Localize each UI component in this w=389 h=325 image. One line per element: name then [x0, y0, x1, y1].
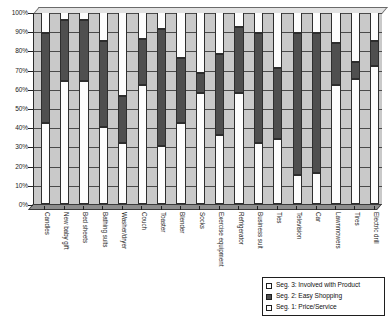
x-axis-tick-mark	[141, 206, 142, 210]
y-axis-tick-mark	[28, 147, 33, 148]
bar-group	[196, 13, 205, 204]
x-axis-tick-label: Television	[296, 212, 302, 239]
bar-segment-seg1	[370, 66, 379, 204]
bar-segment-seg1	[331, 85, 340, 204]
bar-segment-seg1	[118, 143, 127, 204]
bar-segment-seg1	[293, 175, 302, 204]
bar-segment-seg1	[60, 81, 69, 204]
bar-group	[234, 13, 243, 204]
bar-segment-seg2	[254, 33, 263, 142]
stacked-bar[interactable]	[293, 13, 302, 204]
bar-group	[293, 13, 302, 204]
bar-segment-seg3	[41, 13, 50, 33]
y-axis-tick-label: 60%	[15, 87, 28, 94]
legend-swatch-seg3	[266, 283, 272, 289]
bar-segment-seg2	[41, 33, 50, 123]
bar-segment-seg2	[234, 27, 243, 92]
y-axis-tick-label: 20%	[15, 164, 28, 171]
y-axis-tick-mark	[28, 13, 33, 14]
y-axis-tick-mark	[28, 109, 33, 110]
plot-inner	[34, 13, 382, 204]
bar-group	[79, 13, 88, 204]
x-axis-label-slot: Blender	[169, 210, 188, 302]
stacked-bar[interactable]	[60, 13, 69, 204]
x-axis-tick-mark	[316, 206, 317, 210]
x-axis-tick-label: Socks	[199, 212, 205, 229]
bar-segment-seg3	[60, 13, 69, 20]
bar-segment-seg2	[138, 39, 147, 85]
y-axis-tick-label: 70%	[15, 68, 28, 75]
x-axis-label-slot: Toaster	[149, 210, 168, 302]
stacked-bar[interactable]	[138, 13, 147, 204]
y-axis-labels: 100%90%80%70%60%50%40%30%20%10%0%	[2, 0, 28, 325]
bar-segment-seg2	[273, 68, 282, 139]
stacked-bar[interactable]	[118, 13, 127, 204]
bar-segment-seg1	[176, 123, 185, 204]
bar-segment-seg2	[370, 41, 379, 66]
bar-group	[312, 13, 321, 204]
x-axis-label-slot: Bathing suits	[91, 210, 110, 302]
x-axis-label-slot: Couch	[130, 210, 149, 302]
bar-group	[118, 13, 127, 204]
x-axis-tick-mark	[180, 206, 181, 210]
x-axis-tick-mark	[354, 206, 355, 210]
stacked-bar[interactable]	[157, 13, 166, 204]
bar-segment-seg1	[79, 81, 88, 204]
bar-segment-seg1	[254, 143, 263, 204]
x-axis-tick-mark	[374, 206, 375, 210]
bar-segment-seg2	[293, 33, 302, 175]
bar-segment-seg1	[157, 146, 166, 204]
bar-segment-seg1	[41, 123, 50, 204]
bar-segment-seg1	[215, 135, 224, 204]
bar-group	[99, 13, 108, 204]
bar-segment-seg1	[351, 79, 360, 204]
bar-segment-seg3	[293, 13, 302, 33]
stacked-bar[interactable]	[331, 13, 340, 204]
bar-segment-seg1	[99, 127, 108, 204]
stacked-bar[interactable]	[370, 13, 379, 204]
stacked-bar[interactable]	[79, 13, 88, 204]
bar-segment-seg2	[312, 33, 321, 173]
y-axis-tick-label: 50%	[15, 106, 28, 113]
bar-group	[254, 13, 263, 204]
x-axis-tick-label: Toaster	[160, 212, 166, 232]
y-axis-tick-label: 30%	[15, 144, 28, 151]
stacked-bar[interactable]	[196, 13, 205, 204]
stacked-bar[interactable]	[41, 13, 50, 204]
x-axis-tick-label: Bathing suits	[102, 212, 108, 247]
stacked-bar[interactable]	[176, 13, 185, 204]
x-axis-label-slot: Refrigerator	[227, 210, 246, 302]
bar-segment-seg3	[118, 13, 127, 96]
legend-label-seg2: Seg. 2: Easy Shopping	[276, 293, 342, 300]
bar-segment-seg1	[312, 173, 321, 204]
bar-segment-seg3	[331, 13, 340, 43]
bar-segment-seg3	[157, 13, 166, 29]
bar-segment-seg3	[254, 13, 263, 33]
stacked-bar[interactable]	[215, 13, 224, 204]
bar-segment-seg1	[138, 85, 147, 204]
x-axis-tick-label: Refrigerator	[237, 212, 243, 245]
bar-group	[41, 13, 50, 204]
bar-group	[60, 13, 69, 204]
stacked-bar[interactable]	[312, 13, 321, 204]
bar-segment-seg1	[273, 139, 282, 204]
x-axis-tick-label: Washer/dryer	[121, 212, 127, 249]
stacked-bar[interactable]	[273, 13, 282, 204]
bar-segment-seg3	[196, 13, 205, 73]
x-axis-tick-mark	[296, 206, 297, 210]
plot-area	[33, 13, 382, 205]
x-axis-tick-mark	[335, 206, 336, 210]
stacked-bar[interactable]	[351, 13, 360, 204]
y-axis-tick-mark	[28, 205, 33, 206]
legend-item: Seg. 1: Price/Service	[266, 302, 381, 313]
bar-segment-seg3	[312, 13, 321, 33]
y-axis-tick-label: 10%	[15, 183, 28, 190]
x-axis-tick-mark	[44, 206, 45, 210]
x-axis-tick-mark	[199, 206, 200, 210]
stacked-bar[interactable]	[254, 13, 263, 204]
bar-segment-seg1	[196, 93, 205, 204]
stacked-bar[interactable]	[99, 13, 108, 204]
bar-segment-seg3	[234, 13, 243, 27]
stacked-bar[interactable]	[234, 13, 243, 204]
x-axis-label-slot: Bed sheets	[72, 210, 91, 302]
